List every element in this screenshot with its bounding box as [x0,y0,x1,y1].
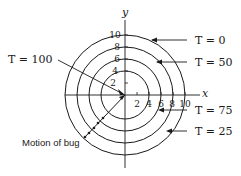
x-tick-4: 4 [146,99,152,109]
label-t75: T = 75 [195,104,233,117]
label-t100: T = 100 [8,53,53,66]
bug-path-arrowhead [119,95,125,100]
y-tick-2: 2 [110,78,116,88]
x-tick-2: 2 [134,99,140,109]
x-axis-label: x [202,87,209,100]
y-tick-4: 4 [112,66,118,76]
label-t50: T = 50 [195,56,233,69]
contour-diagram: y x 2 4 6 8 10 2 4 6 8 10 T = 100 T = 0 … [0,0,241,176]
x-tick-10: 10 [179,99,191,109]
y-tick-8: 8 [114,42,120,52]
t100-arrowhead [118,89,125,95]
label-t0: T = 0 [195,34,226,47]
y-axis-label: y [121,6,129,19]
x-tick-8: 8 [169,99,175,109]
x-tick-6: 6 [158,99,164,109]
y-tick-10: 10 [109,30,121,40]
label-motion-of-bug: Motion of bug [22,137,80,148]
y-tick-6: 6 [114,54,120,64]
bug-path [84,95,125,138]
label-t25: T = 25 [195,125,233,138]
t50-arrowhead [156,60,162,65]
t25-arrowhead [166,129,172,134]
